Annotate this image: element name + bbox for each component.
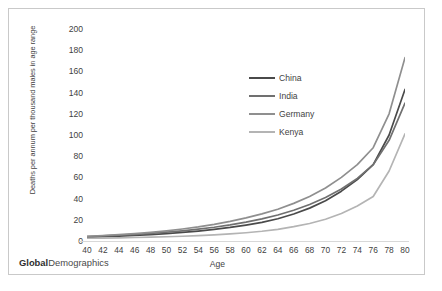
legend-label: China [279, 73, 301, 83]
y-tick-label: 200 [55, 24, 83, 34]
x-tick-label: 40 [82, 245, 91, 255]
legend-item-germany: Germany [249, 105, 314, 123]
y-tick-label: 140 [55, 88, 83, 98]
x-tick-label: 74 [353, 245, 362, 255]
x-tick-label: 44 [114, 245, 123, 255]
plot-area [87, 29, 405, 241]
x-tick-label: 62 [257, 245, 266, 255]
x-tick-label: 64 [273, 245, 282, 255]
x-tick-label: 70 [321, 245, 330, 255]
y-tick-label: 120 [55, 109, 83, 119]
x-tick-label: 66 [289, 245, 298, 255]
x-tick-label: 72 [337, 245, 346, 255]
series-lines [87, 29, 405, 241]
y-tick-label: 60 [55, 172, 83, 182]
y-axis-title: Deaths per annum per thousand males in a… [28, 10, 38, 210]
legend-swatch-icon [249, 113, 275, 115]
brand-rest-text: Demographics [48, 257, 108, 268]
x-tick-label: 50 [162, 245, 171, 255]
y-tick-label: 80 [55, 151, 83, 161]
legend-label: Kenya [279, 127, 303, 137]
legend-label: Germany [279, 109, 314, 119]
x-tick-label: 68 [305, 245, 314, 255]
x-tick-label: 52 [178, 245, 187, 255]
chart-legend: ChinaIndiaGermanyKenya [249, 69, 314, 141]
x-tick-label: 42 [98, 245, 107, 255]
x-tick-label: 80 [400, 245, 409, 255]
x-tick-label: 56 [210, 245, 219, 255]
legend-swatch-icon [249, 95, 275, 97]
x-axis-tick-labels: 4042444648505254565860626466687072747678… [87, 245, 405, 259]
x-tick-label: 58 [225, 245, 234, 255]
brand-bold-text: Global [19, 257, 48, 268]
series-line-india [87, 103, 405, 236]
y-tick-label: 160 [55, 66, 83, 76]
legend-item-kenya: Kenya [249, 123, 314, 141]
legend-item-india: India [249, 87, 314, 105]
legend-swatch-icon [249, 131, 275, 133]
y-tick-label: 40 [55, 194, 83, 204]
x-axis-line [79, 241, 409, 242]
series-line-china [87, 89, 405, 237]
x-tick-label: 54 [194, 245, 203, 255]
chart-figure: Deaths per annum per thousand males in a… [8, 8, 425, 275]
x-tick-label: 46 [130, 245, 139, 255]
y-tick-label: 180 [55, 45, 83, 55]
x-tick-label: 48 [146, 245, 155, 255]
legend-item-china: China [249, 69, 314, 87]
y-tick-label: 20 [55, 215, 83, 225]
x-tick-label: 78 [384, 245, 393, 255]
y-axis-tick-labels: 020406080100120140160180200 [55, 21, 83, 239]
y-tick-label: 100 [55, 130, 83, 140]
brand-watermark: GlobalDemographics [19, 257, 109, 268]
legend-swatch-icon [249, 77, 275, 79]
x-tick-label: 76 [369, 245, 378, 255]
legend-label: India [279, 91, 298, 101]
series-line-germany [87, 58, 405, 237]
x-tick-label: 60 [241, 245, 250, 255]
